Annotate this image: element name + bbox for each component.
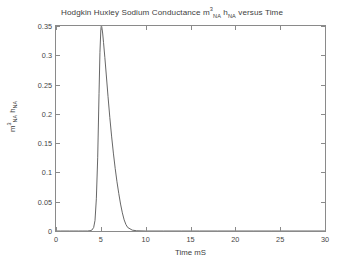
y-axis-label: m3NA hNA xyxy=(8,67,17,167)
y-tick-mark-right xyxy=(321,143,325,144)
x-tick-mark-bottom xyxy=(191,227,192,231)
y-axis-label-superscript: 3 xyxy=(6,123,12,126)
x-tick-label: 25 xyxy=(276,235,284,244)
chart-title-mid: h xyxy=(221,8,228,17)
x-tick-mark-bottom xyxy=(235,227,236,231)
y-tick-label: 0.15 xyxy=(38,139,52,148)
x-tick-mark-top xyxy=(280,26,281,30)
x-tick-label: 20 xyxy=(231,235,239,244)
chart-title-tail: versus Time xyxy=(236,8,283,17)
y-axis-label-lead: m xyxy=(8,126,17,133)
y-tick-mark-right xyxy=(321,26,325,27)
y-tick-mark-left xyxy=(56,143,60,144)
series-line-sodium-conductance xyxy=(56,26,325,231)
x-tick-mark-bottom xyxy=(101,227,102,231)
y-tick-mark-left xyxy=(56,55,60,56)
x-tick-mark-bottom xyxy=(146,227,147,231)
y-tick-mark-left xyxy=(56,114,60,115)
x-tick-label: 30 xyxy=(321,235,329,244)
x-tick-mark-top xyxy=(191,26,192,30)
chart-title-subscript-2: NA xyxy=(228,13,236,19)
y-tick-mark-left xyxy=(56,172,60,173)
x-tick-mark-bottom xyxy=(325,227,326,231)
x-tick-mark-top xyxy=(235,26,236,30)
x-tick-mark-top xyxy=(146,26,147,30)
y-tick-mark-left xyxy=(56,26,60,27)
x-tick-mark-top xyxy=(101,26,102,30)
y-tick-mark-right xyxy=(321,202,325,203)
y-axis-label-subscript-2: NA xyxy=(12,101,18,109)
y-tick-mark-right xyxy=(321,85,325,86)
x-tick-label: 5 xyxy=(99,235,103,244)
y-tick-label: 0 xyxy=(48,227,52,236)
chart-title-superscript: 3 xyxy=(210,6,213,12)
chart-figure: Hodgkin Huxley Sodium Conductance m3NA h… xyxy=(0,0,344,270)
y-tick-label: 0.05 xyxy=(38,197,52,206)
chart-title: Hodgkin Huxley Sodium Conductance m3NA h… xyxy=(0,8,344,17)
y-tick-label: 0.25 xyxy=(38,80,52,89)
y-tick-label: 0.35 xyxy=(38,22,52,31)
data-line-svg xyxy=(56,26,325,231)
x-tick-label: 0 xyxy=(54,235,58,244)
y-tick-mark-left xyxy=(56,85,60,86)
y-axis-label-mid: h xyxy=(8,109,17,116)
y-tick-mark-left xyxy=(56,231,60,232)
y-tick-mark-right xyxy=(321,114,325,115)
y-tick-mark-right xyxy=(321,55,325,56)
x-axis-label: Time mS xyxy=(55,248,326,257)
x-tick-mark-bottom xyxy=(280,227,281,231)
y-tick-label: 0.1 xyxy=(42,168,52,177)
y-tick-mark-right xyxy=(321,172,325,173)
x-tick-label: 10 xyxy=(142,235,150,244)
plot-area xyxy=(55,25,326,232)
y-tick-mark-right xyxy=(321,231,325,232)
chart-title-lead: Hodgkin Huxley Sodium Conductance m xyxy=(61,8,210,17)
y-tick-label: 0.2 xyxy=(42,109,52,118)
x-tick-label: 15 xyxy=(186,235,194,244)
chart-title-subscript-1: NA xyxy=(213,13,221,19)
y-tick-mark-left xyxy=(56,202,60,203)
x-tick-mark-top xyxy=(325,26,326,30)
y-tick-label: 0.3 xyxy=(42,51,52,60)
y-axis-label-subscript-1: NA xyxy=(12,115,18,123)
